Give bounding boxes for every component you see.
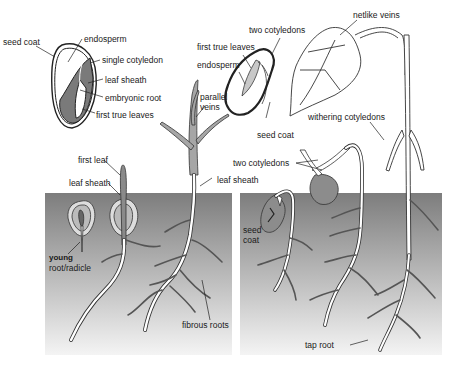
label-single-cotyledon: single cotyledon — [102, 55, 163, 65]
label-dicot-two-cotyledons: two cotyledons — [249, 25, 305, 35]
label-seed-coat-line1: seed — [243, 225, 261, 235]
label-young-root-line2: root/radicle — [49, 263, 91, 273]
label-first-leaf: first leaf — [78, 155, 108, 165]
label-seedling-two-cotyledons: two cotyledons — [233, 158, 289, 168]
label-seed-coat-line2: coat — [243, 235, 259, 245]
label-embryonic-root: embryonic root — [105, 93, 161, 103]
label-young-root-line1: young — [49, 253, 73, 263]
label-monocot-endosperm: endosperm — [84, 34, 127, 44]
label-tap-root: tap root — [305, 340, 334, 350]
label-parallel-veins-line2: veins — [200, 102, 220, 112]
label-withering-cotyledons: withering cotyledons — [308, 112, 385, 122]
label-plant-leaf-sheath: leaf sheath — [217, 175, 259, 185]
label-seedling-leaf-sheath: leaf sheath — [69, 178, 111, 188]
label-dicot-seed-coat: seed coat — [257, 130, 294, 140]
label-dicot-endosperm: endosperm — [197, 60, 240, 70]
monocot-seed-icon — [52, 44, 97, 128]
label-fibrous-roots: fibrous roots — [182, 320, 229, 330]
label-parallel-veins-line1: parallel — [200, 92, 227, 102]
germination-diagram: seed coat endosperm single cotyledon lea… — [0, 0, 461, 365]
label-netlike-veins: netlike veins — [353, 10, 400, 20]
label-monocot-first-true-leaves: first true leaves — [96, 110, 154, 120]
label-monocot-seed-coat: seed coat — [3, 37, 40, 47]
label-dicot-first-true-leaves: first true leaves — [197, 42, 255, 52]
label-monocot-leaf-sheath: leaf sheath — [105, 75, 147, 85]
